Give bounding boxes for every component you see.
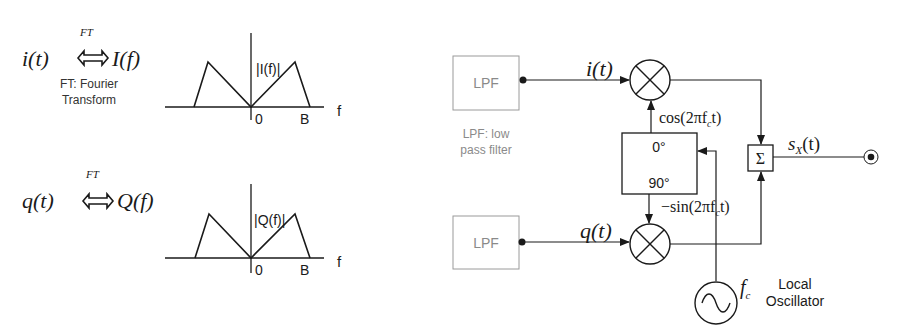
- i-freq-signal: I(f): [111, 46, 140, 71]
- spectrum-q-axis-label: f: [337, 253, 342, 270]
- lpf-bottom-label: LPF: [473, 235, 499, 251]
- mixer-bottom-icon: [630, 224, 670, 264]
- oscillator-freq-label: fc: [740, 276, 751, 301]
- output-terminal-icon: [864, 150, 878, 164]
- q-time-signal: q(t): [22, 188, 54, 213]
- phase-bottom-label: 90°: [648, 175, 669, 191]
- output-signal-label: sX(t): [788, 133, 820, 156]
- ft-note-line1: FT: Fourier: [60, 77, 118, 91]
- sum-symbol: Σ: [756, 150, 765, 167]
- lpf-note-line2: pass filter: [460, 143, 511, 157]
- i-input-label: i(t): [586, 56, 613, 81]
- spectrum-q-label: |Q(f)|: [254, 212, 285, 228]
- sin-carrier-label: −sin(2πfct): [661, 198, 730, 218]
- mixer-top-icon: [630, 60, 670, 100]
- q-fourier-pair: q(t) FT Q(f): [22, 168, 154, 213]
- oscillator-label-line2: Oscillator: [766, 293, 825, 309]
- spectrum-i-label: |I(f)|: [256, 61, 280, 77]
- spectrum-q-origin: 0: [255, 262, 263, 278]
- lpf-top-output-dot: [520, 77, 527, 84]
- double-arrow-icon: [83, 194, 113, 208]
- spectrum-i-plot: [165, 33, 324, 120]
- q-input-label: q(t): [580, 218, 612, 243]
- oscillator-label-line1: Local: [778, 276, 811, 292]
- cos-carrier-label: cos(2πfct): [659, 109, 721, 129]
- lpf-top-label: LPF: [473, 75, 499, 91]
- ft-note-line2: Transform: [62, 93, 116, 107]
- oscillator-icon: [695, 282, 737, 324]
- spectrum-i-band: B: [300, 111, 309, 127]
- spectrum-q-band: B: [300, 262, 309, 278]
- double-arrow-icon: [78, 51, 108, 65]
- diagram-canvas: i(t) FT I(f) FT: Fourier Transform q(t) …: [0, 0, 915, 330]
- phase-top-label: 0°: [652, 139, 665, 155]
- lpf-note-line1: LPF: low: [463, 127, 510, 141]
- spectrum-i-origin: 0: [255, 111, 263, 127]
- ft-label-bottom: FT: [85, 168, 100, 180]
- i-fourier-pair: i(t) FT I(f) FT: Fourier Transform: [22, 26, 140, 107]
- i-time-signal: i(t): [22, 46, 49, 71]
- lpf-bottom-output-dot: [519, 239, 526, 246]
- ft-label-top: FT: [79, 26, 94, 38]
- q-freq-signal: Q(f): [117, 188, 154, 213]
- spectrum-i-axis-label: f: [337, 102, 342, 119]
- spectrum-q-plot: [165, 184, 324, 273]
